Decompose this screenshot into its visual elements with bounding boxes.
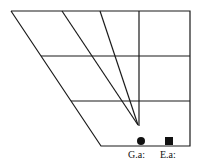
circle-marker-icon xyxy=(137,137,145,145)
g-label: G.a: xyxy=(128,150,145,160)
diagram-canvas xyxy=(0,0,200,167)
e-label: E.a: xyxy=(160,150,176,160)
trapezoid-outline xyxy=(11,11,190,146)
ray-left xyxy=(62,11,138,125)
square-marker-icon xyxy=(165,137,173,145)
ray-middle xyxy=(100,11,138,125)
